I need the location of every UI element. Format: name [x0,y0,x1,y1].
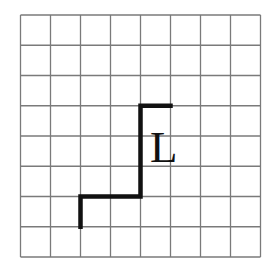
grid-diagram [0,0,275,271]
letter-label: L [150,125,178,170]
